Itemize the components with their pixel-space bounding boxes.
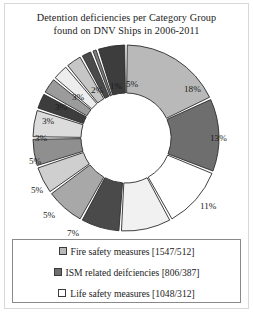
donut-percent-label: 18% xyxy=(184,84,201,94)
legend-label-fire-safety: Fire safety measures [1547/512] xyxy=(71,246,195,257)
donut-percent-label: 3% xyxy=(72,92,84,102)
legend-item-life-safety[interactable]: Life safety measures [1048/312] xyxy=(13,283,240,303)
legend-item-ism-related[interactable]: ISM related deifciencies [806/387] xyxy=(13,262,240,282)
donut-percent-label: 1% xyxy=(110,81,122,91)
chart-title-line2: found on DNV Ships in 2006-2011 xyxy=(0,24,253,37)
donut-percent-label: 13% xyxy=(210,133,227,143)
chart-figure: Detention deficiencies per Category Grou… xyxy=(0,0,253,313)
donut-percent-label: 3% xyxy=(42,116,54,126)
donut-percent-label: 3% xyxy=(55,102,67,112)
legend-swatch-life-safety xyxy=(58,289,66,297)
legend-label-ism-related: ISM related deifciencies [806/387] xyxy=(66,267,200,278)
donut-percent-label: 7% xyxy=(67,228,79,238)
donut-slice-group xyxy=(33,45,219,231)
chart-title: Detention deficiencies per Category Grou… xyxy=(0,11,253,37)
donut-percent-label: 2% xyxy=(91,85,103,95)
chart-legend: Fire safety measures [1547/512] ISM rela… xyxy=(12,239,241,303)
donut-percent-label: 5% xyxy=(29,156,41,166)
donut-percent-label: 3% xyxy=(35,133,47,143)
donut-percent-label: 5% xyxy=(126,79,138,89)
legend-label-life-safety: Life safety measures [1048/312] xyxy=(70,288,194,299)
donut-percent-label: 5% xyxy=(31,185,43,195)
legend-item-fire-safety[interactable]: Fire safety measures [1547/512] xyxy=(13,241,240,261)
donut-percent-label: 11% xyxy=(200,201,217,211)
legend-swatch-fire-safety xyxy=(59,247,67,255)
donut-percent-label: 5% xyxy=(43,210,55,220)
legend-swatch-ism-related xyxy=(54,268,62,276)
chart-title-line1: Detention deficiencies per Category Grou… xyxy=(37,12,217,23)
donut-chart: 18%13%11%9%7%7%5%5%5%3%3%3%3%2%1%5% xyxy=(14,38,239,238)
